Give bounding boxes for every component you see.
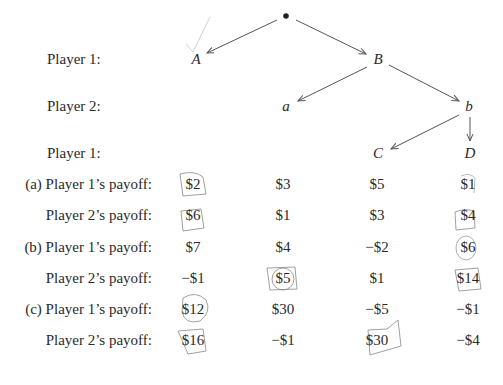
tree-row-label-player2: Player 2: xyxy=(47,97,101,115)
node-C: C xyxy=(363,144,393,162)
node-A: A xyxy=(181,50,211,68)
payoff-cell: $1 xyxy=(438,175,498,193)
edge-root-B xyxy=(296,20,366,54)
payoff-cell: $30 xyxy=(347,331,407,349)
payoff-cell: −$1 xyxy=(438,300,498,318)
payoff-cell: $1 xyxy=(253,206,313,224)
payoff-row-label: (a) Player 1’s payoff: xyxy=(0,175,152,193)
node-B: B xyxy=(363,50,393,68)
payoff-cell: $4 xyxy=(438,206,498,224)
edge-root-A xyxy=(207,20,277,53)
payoff-row-label: (c) Player 1’s payoff: xyxy=(0,300,152,318)
payoff-cell: $6 xyxy=(438,238,498,256)
payoff-row-label: Player 2’s payoff: xyxy=(0,331,152,349)
payoff-cell: $3 xyxy=(253,175,313,193)
payoff-cell: $7 xyxy=(163,238,223,256)
payoff-cell: $12 xyxy=(163,300,223,318)
payoff-cell: −$1 xyxy=(163,269,223,287)
payoff-row-label: (b) Player 1’s payoff: xyxy=(0,238,152,256)
payoff-cell: $6 xyxy=(163,206,223,224)
edge-B-b xyxy=(389,65,459,101)
payoff-cell: $5 xyxy=(347,175,407,193)
payoff-cell: $2 xyxy=(163,175,223,193)
node-a: a xyxy=(271,97,301,115)
tree-row-label-player1: Player 1: xyxy=(47,50,101,68)
payoff-cell: $4 xyxy=(253,238,313,256)
payoff-cell: $14 xyxy=(438,269,498,287)
root-node-dot xyxy=(283,13,289,19)
payoff-row-label: Player 2’s payoff: xyxy=(0,269,152,287)
node-b: b xyxy=(454,97,484,115)
payoff-cell: $16 xyxy=(163,331,223,349)
edge-b-C xyxy=(391,115,459,149)
payoff-cell: −$1 xyxy=(253,331,313,349)
payoff-cell: $5 xyxy=(253,269,313,287)
node-D: D xyxy=(455,144,485,162)
payoff-cell: −$5 xyxy=(347,300,407,318)
tree-row-label-player1-second: Player 1: xyxy=(47,144,101,162)
payoff-cell: −$2 xyxy=(347,238,407,256)
payoff-cell: −$4 xyxy=(438,331,498,349)
payoff-cell: $30 xyxy=(253,300,313,318)
payoff-row-label: Player 2’s payoff: xyxy=(0,206,152,224)
checkmark-annotation xyxy=(186,17,210,52)
payoff-cell: $1 xyxy=(347,269,407,287)
payoff-cell: $3 xyxy=(347,206,407,224)
edge-B-a xyxy=(298,67,367,101)
